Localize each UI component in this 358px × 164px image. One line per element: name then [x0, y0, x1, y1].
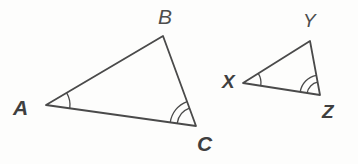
vertex-label-z: Z: [322, 102, 334, 121]
vertex-label-b: B: [158, 6, 172, 27]
triangle-xyz-shape: [243, 41, 320, 95]
angle-arc-a: [67, 93, 70, 109]
vertex-label-a: A: [13, 97, 28, 118]
vertex-label-c: C: [197, 133, 212, 154]
vertex-label-y: Y: [303, 11, 316, 30]
angle-arc-x: [258, 73, 261, 85]
vertex-label-x: X: [222, 72, 235, 91]
geometry-figure: A B C X Y Z: [0, 0, 358, 164]
triangle-xyz-outline: [243, 41, 320, 95]
angle-arc-c: [177, 108, 189, 123]
angle-arc-z: [307, 82, 317, 93]
